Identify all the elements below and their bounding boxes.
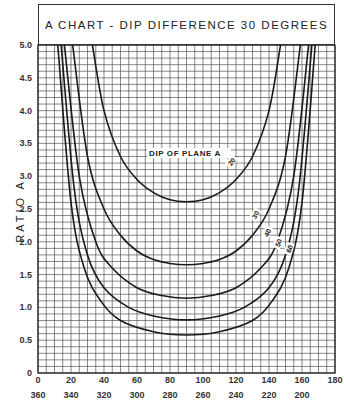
y-tick-label: 5.0	[19, 40, 32, 50]
x-tick-label-secondary: 300	[129, 390, 144, 400]
y-tick-label: 0	[27, 368, 32, 378]
x-tick-label-secondary: 200	[294, 390, 309, 400]
annotation-dip-of-plane-a: DIP OF PLANE A	[149, 149, 221, 158]
x-tick-label-secondary: 220	[261, 390, 276, 400]
y-axis-label: RATIO A	[14, 179, 26, 243]
y-tick-label: 4.5	[19, 73, 32, 83]
x-tick-label-secondary: 280	[162, 390, 177, 400]
chart-canvas: 00.51.01.52.02.53.03.54.04.55.0020406080…	[0, 0, 344, 403]
y-tick-label: 1.5	[19, 270, 32, 280]
y-tick-label: 0.5	[19, 335, 32, 345]
x-tick-label: 120	[228, 375, 243, 385]
y-tick-label: 3.5	[19, 138, 32, 148]
x-tick-label-secondary: 240	[228, 390, 243, 400]
x-tick-label: 80	[165, 375, 175, 385]
x-tick-label-secondary: 360	[30, 390, 45, 400]
x-tick-label-secondary: 340	[63, 390, 78, 400]
x-tick-label: 140	[261, 375, 276, 385]
x-tick-label: 40	[99, 375, 109, 385]
chart-title: A CHART - DIP DIFFERENCE 30 DEGREES	[38, 4, 335, 45]
x-tick-label: 0	[35, 375, 40, 385]
y-tick-label: 4.0	[19, 106, 32, 116]
x-tick-label: 100	[195, 375, 210, 385]
x-tick-label: 20	[66, 375, 76, 385]
x-tick-label: 180	[327, 375, 342, 385]
x-tick-label: 160	[294, 375, 309, 385]
y-tick-label: 1.0	[19, 302, 32, 312]
x-tick-label-secondary: 260	[195, 390, 210, 400]
x-tick-label-secondary: 320	[96, 390, 111, 400]
x-tick-label: 60	[132, 375, 142, 385]
